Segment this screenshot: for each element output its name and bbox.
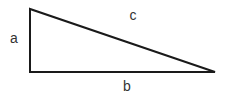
label-side-c: c bbox=[130, 7, 137, 23]
label-side-b: b bbox=[123, 78, 131, 94]
label-side-a: a bbox=[10, 30, 18, 46]
triangle-shape bbox=[30, 9, 215, 72]
right-triangle-diagram: a c b bbox=[0, 0, 226, 99]
